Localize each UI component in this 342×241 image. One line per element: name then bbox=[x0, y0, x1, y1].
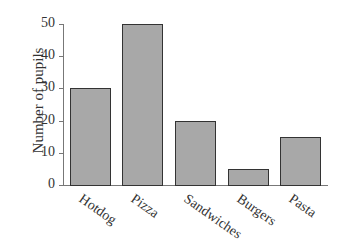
bar-chart: Number of pupils 01020304050 HotdogPizza… bbox=[0, 0, 342, 241]
y-tick-label: 40 bbox=[31, 47, 55, 63]
x-tick-label: Sandwiches bbox=[180, 191, 244, 241]
bar-pizza bbox=[122, 24, 163, 186]
x-tick-label: Hotdog bbox=[75, 191, 119, 228]
y-tick-label: 20 bbox=[31, 112, 55, 128]
bar-pasta bbox=[280, 137, 321, 186]
x-tick-label: Burgers bbox=[233, 191, 278, 229]
bar-hotdog bbox=[70, 88, 111, 186]
y-tick-label: 50 bbox=[31, 15, 55, 31]
y-axis-line bbox=[63, 24, 64, 186]
x-tick-label: Pizza bbox=[127, 191, 161, 222]
bar-sandwiches bbox=[175, 121, 216, 186]
y-tick-label: 0 bbox=[31, 176, 55, 192]
x-tick-label: Pasta bbox=[285, 191, 318, 221]
y-tick-label: 30 bbox=[31, 79, 55, 95]
bar-burgers bbox=[228, 169, 269, 186]
y-tick-label: 10 bbox=[31, 144, 55, 160]
